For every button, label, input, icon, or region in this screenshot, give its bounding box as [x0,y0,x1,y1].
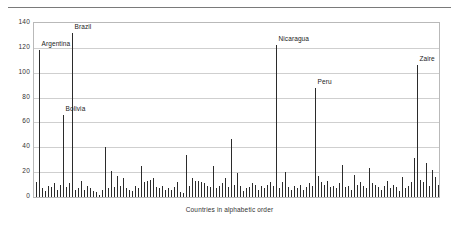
bar [399,191,401,197]
bar [90,188,92,197]
bar [438,185,440,197]
bar [423,182,425,197]
bar [225,178,227,197]
header-divider [8,7,451,8]
bar [174,187,176,197]
bar [333,186,335,197]
bar-annotation-bolivia: Bolivia [66,106,86,113]
bar-annotation-argentina: Argentina [42,41,71,48]
bar [402,177,404,197]
bar [390,188,392,197]
plot-area: ArgentinaBrazilBoliviaNicaraguaPeruZaire [33,22,440,198]
bar [51,187,53,197]
bar-annotation-zaire: Zaire [420,56,435,63]
bar [366,188,368,197]
bar [147,181,149,197]
bar [264,188,266,197]
bar [171,190,173,197]
bar [96,192,98,197]
chart-figure: 020406080100120140 ArgentinaBrazilBolivi… [0,0,459,230]
bar [372,183,374,197]
bar [348,186,350,197]
bar [198,181,200,197]
y-tick-label: 80 [2,94,30,101]
bar [63,115,65,197]
bar [183,193,185,197]
bar [105,147,107,197]
bar [408,186,410,197]
bar [84,190,86,197]
y-tick-label: 140 [2,19,30,26]
y-tick-label: 100 [2,69,30,76]
bar [378,187,380,197]
bar [327,181,329,197]
bar [99,195,101,197]
bar [129,190,131,197]
bar [117,176,119,197]
bar [300,185,302,197]
bar [354,175,356,197]
bar [237,173,239,197]
bar [369,168,371,197]
bar [303,190,305,197]
bar [159,188,161,197]
bar [162,186,164,197]
y-tick-label: 40 [2,143,30,150]
bar [417,65,419,197]
bar [234,185,236,197]
x-axis-label: Countries in alphabetic order [0,206,459,213]
bar [177,182,179,197]
bar [75,190,77,197]
bar [345,187,347,197]
bar [144,182,146,197]
bar [258,190,260,197]
bar [375,185,377,197]
bar [132,191,134,197]
bar [288,187,290,197]
bar [255,185,257,197]
bar [330,187,332,197]
bar [114,187,116,197]
bar [195,181,197,197]
bar [351,190,353,197]
bar [57,190,59,197]
bar [243,191,245,197]
bar [321,182,323,197]
y-tick-label: 60 [2,118,30,125]
bar [411,182,413,197]
bar [228,187,230,197]
bar [93,191,95,197]
bar [138,188,140,197]
bar [285,172,287,197]
bar [180,192,182,197]
bar [216,188,218,197]
bar [381,190,383,197]
bar [192,178,194,197]
bar [384,186,386,197]
y-axis: 020406080100120140 [0,22,30,198]
bar [282,182,284,197]
bar [276,45,278,197]
bar [435,177,437,197]
bar [294,186,296,197]
bar-annotation-brazil: Brazil [75,24,92,31]
bar [219,186,221,197]
bar [141,166,143,197]
bar [48,186,50,197]
bar [111,171,113,197]
bar [393,185,395,197]
bar [252,183,254,197]
bar [231,139,233,197]
bar [150,180,152,197]
bar [240,186,242,197]
bar [261,186,263,197]
bar [279,188,281,197]
bar [246,188,248,197]
bar [108,188,110,197]
bar [312,186,314,197]
bar [297,188,299,197]
bar [186,155,188,197]
bar [249,187,251,197]
bar [222,183,224,197]
bar [309,183,311,197]
